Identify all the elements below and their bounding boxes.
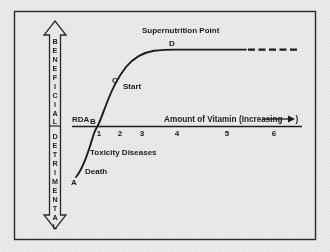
beneficial-letter: B xyxy=(52,37,57,46)
y-axis-label-beneficial: B E N E F I C I A L xyxy=(52,37,57,126)
beneficial-letter: E xyxy=(53,64,58,73)
x-tick-label: 6 xyxy=(272,129,277,138)
x-axis-title-close-paren: ) xyxy=(296,115,299,124)
detrimental-letter: M xyxy=(52,177,58,186)
detrimental-letter: N xyxy=(52,195,57,204)
annotation-toxicity-diseases: Toxicity Diseases xyxy=(90,148,157,157)
x-tick-label: 4 xyxy=(175,129,180,138)
x-tick-label: 5 xyxy=(225,129,230,138)
annotation-supernutrition-point: Supernutrition Point xyxy=(142,26,220,35)
point-label-a: A xyxy=(71,178,77,187)
detrimental-letter: T xyxy=(53,204,58,213)
x-tick-label: 3 xyxy=(140,129,145,138)
point-label-d: D xyxy=(169,39,175,48)
detrimental-letter: E xyxy=(53,141,58,150)
detrimental-letter: I xyxy=(54,168,56,177)
annotation-death: Death xyxy=(85,167,107,176)
detrimental-letter: A xyxy=(52,213,57,222)
beneficial-letter: I xyxy=(54,82,56,91)
beneficial-letter: E xyxy=(53,46,58,55)
annotation-rda: RDA xyxy=(72,115,90,124)
beneficial-letter: C xyxy=(52,91,57,100)
detrimental-letter: T xyxy=(53,150,58,159)
point-label-b: B xyxy=(90,117,96,126)
beneficial-letter: N xyxy=(52,55,57,64)
x-tick-label: 1 xyxy=(97,129,102,138)
detrimental-letter: D xyxy=(52,132,57,141)
beneficial-letter: L xyxy=(53,117,58,126)
x-axis-title: Amount of Vitamin (Increasing ) xyxy=(164,115,299,124)
detrimental-letter: E xyxy=(53,186,58,195)
detrimental-letter: R xyxy=(52,159,58,168)
point-label-c: C xyxy=(112,76,118,85)
vitamin-response-chart: B E N E F I C I A L D E T R I M E N T A … xyxy=(0,0,330,252)
detrimental-letter: L xyxy=(53,222,58,231)
x-tick-label: 2 xyxy=(118,129,123,138)
beneficial-letter: I xyxy=(54,100,56,109)
annotation-start: Start xyxy=(123,82,142,91)
beneficial-letter: F xyxy=(53,73,58,82)
